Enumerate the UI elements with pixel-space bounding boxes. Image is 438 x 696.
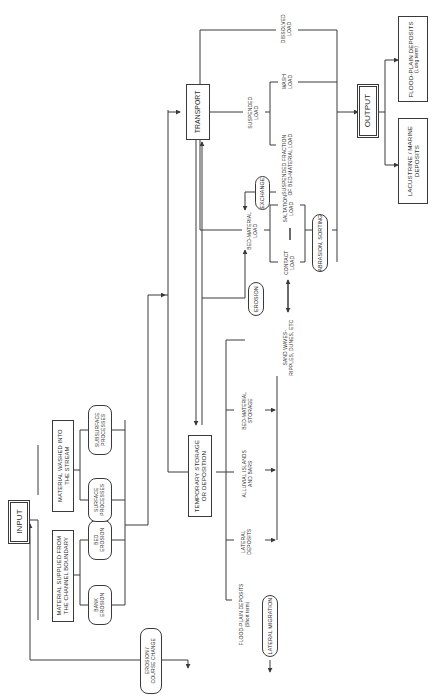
transport-box: TRANSPORT	[186, 84, 210, 140]
bank-erosion-pill: BANK EROSION	[88, 585, 112, 625]
sand-waves-label: SAND WAVES- RIPPLES, DUNES, ETC	[276, 320, 302, 376]
bed-erosion-pill: BED EROSION	[88, 520, 112, 560]
abrasion-sorting-pill: ABRASION, SORTING	[312, 214, 328, 272]
input-label: INPUT	[14, 510, 23, 535]
saltation-load-label: SALTATION LOAD	[278, 196, 300, 222]
erosion-course-change-pill: EROSION / COURSE CHANGE	[140, 628, 162, 694]
erosion-pill: EROSION	[248, 282, 264, 316]
material-washed-line2: THE STREAM	[63, 430, 70, 503]
alluvial-islands-label: ALLUVIAL ISLANDS AND BARS	[236, 448, 260, 500]
material-supplied-line2: THE CHANNEL BOUNDARY	[63, 536, 70, 616]
material-supplied-box: MATERIAL SUPPLIED FROM THE CHANNEL BOUND…	[52, 530, 74, 622]
surface-processes-pill: SURFACE PROCESSES	[88, 478, 112, 522]
lateral-migration-pill: LATERAL MIGRATION	[262, 595, 278, 657]
input-box: INPUT	[8, 500, 30, 544]
lateral-deposits-label: LATERAL DEPOSITS	[236, 525, 258, 559]
subsurface-processes-pill: SUBSURFACE PROCESSES	[88, 405, 112, 455]
bed-material-load-label: BED-MATERIAL LOAD	[242, 212, 264, 250]
suspended-fraction-label: SUSPENDED FRACTION OF BED-MATERIAL LOAD	[276, 135, 300, 195]
dissolved-load-label: DISSOLVED LOAD	[276, 12, 298, 46]
exchange-pill: EXCHANGE	[255, 176, 270, 210]
contact-load-label: CONTACT LOAD	[278, 250, 300, 276]
output-label: OUTPUT	[363, 94, 372, 128]
material-washed-line1: MATERIAL WASHED INTO	[56, 430, 63, 503]
flood-plain-long-box: FLOOD-PLAIN DEPOSITS (Long term)	[398, 16, 428, 102]
wash-load-label: WASH LOAD	[278, 70, 298, 94]
output-box: OUTPUT	[357, 84, 379, 138]
material-supplied-line1: MATERIAL SUPPLIED FROM	[56, 536, 63, 616]
material-washed-box: MATERIAL WASHED INTO THE STREAM	[52, 420, 74, 512]
lacustrine-marine-box: LACUSTRINE / MARINE DEPOSITS	[398, 118, 428, 204]
temporary-storage-box: TEMPORARY STORAGE OR DEPOSITION	[188, 435, 212, 517]
suspended-load-label: SUSPENDED LOAD	[243, 96, 265, 130]
bed-material-storage-label: BED-MATERIAL STORAGE	[236, 388, 260, 434]
flood-plain-short-label: FLOOD-PLAIN DEPOSITS (Short term)	[232, 585, 258, 645]
